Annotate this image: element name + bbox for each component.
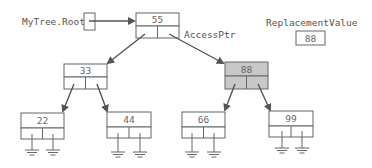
node-22: 22 — [21, 113, 64, 155]
root-label: MyTree.Root — [22, 16, 85, 27]
replacement-value: 88 — [305, 33, 317, 44]
node-33: 33 — [64, 64, 107, 89]
node-99: 99 — [269, 111, 313, 153]
svg-text:55: 55 — [152, 14, 163, 25]
svg-text:22: 22 — [37, 115, 48, 126]
svg-text:33: 33 — [80, 65, 91, 76]
access-ptr-label: AccessPtr — [184, 29, 236, 40]
svg-text:99: 99 — [285, 113, 297, 124]
arrow-55-to-33 — [108, 34, 145, 63]
replacement-value-label: ReplacementValue — [266, 17, 358, 28]
svg-text:88: 88 — [241, 64, 253, 75]
binary-tree-diagram: MyTree.Root 55 AccessPtr ReplacementValu… — [0, 0, 372, 168]
node-44: 44 — [107, 112, 151, 157]
node-55: 55 — [136, 13, 179, 38]
node-66: 66 — [182, 112, 225, 157]
node-88-highlighted: 88 — [225, 62, 268, 89]
svg-text:66: 66 — [198, 114, 210, 125]
svg-text:44: 44 — [123, 114, 135, 125]
